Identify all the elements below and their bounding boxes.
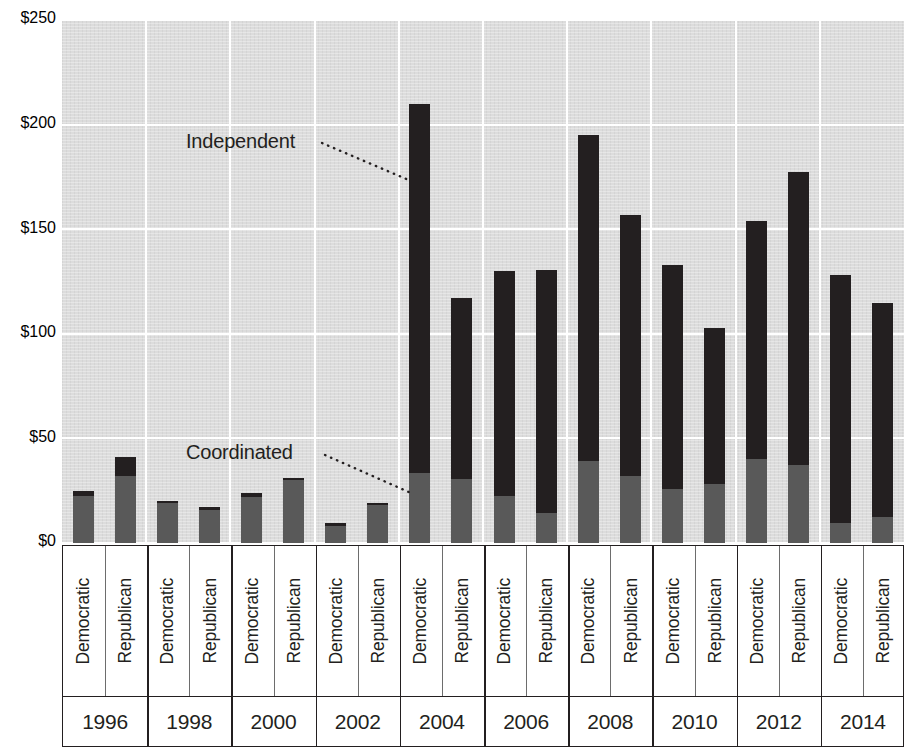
party-label-text: Republican xyxy=(791,578,809,664)
party-label-text: Republican xyxy=(875,578,893,664)
party-label-text: Democratic xyxy=(580,578,598,665)
year-divider-2008 xyxy=(568,697,570,746)
x-axis-label-1998-democratic: Democratic xyxy=(147,546,189,696)
year-divider-2012 xyxy=(737,697,739,746)
bar-segment-independent xyxy=(409,104,430,473)
bar-2000-republican xyxy=(283,478,304,543)
x-axis-label-2010-democratic: Democratic xyxy=(652,546,694,696)
bar-segment-independent xyxy=(662,265,683,489)
year-separator-2006 xyxy=(484,546,486,696)
party-separator-2000 xyxy=(274,546,275,696)
gridline-v-2002 xyxy=(314,20,316,543)
x-axis-label-2002-democratic: Democratic xyxy=(316,546,358,696)
y-tick-label: $250 xyxy=(20,9,56,26)
party-separator-2012 xyxy=(779,546,780,696)
gridline-v-2004 xyxy=(398,20,400,543)
bar-segment-coordinated xyxy=(73,496,94,543)
annotation-independent: Independent xyxy=(186,130,295,153)
bar-segment-independent xyxy=(199,507,220,509)
bar-segment-coordinated xyxy=(536,513,557,543)
bar-segment-independent xyxy=(283,478,304,480)
stacked-bar-chart: $250 $200 $150 $100 $50 $0 Independent C… xyxy=(0,0,904,747)
year-separator-2004 xyxy=(400,546,402,696)
x-axis-year-2012: 2012 xyxy=(737,697,821,746)
bar-segment-independent xyxy=(157,501,178,503)
x-axis-year-row: 1996199820002002200420062008201020122014 xyxy=(62,697,904,747)
bar-1998-republican xyxy=(199,507,220,543)
y-tick-label: $100 xyxy=(20,323,56,340)
year-divider-2000 xyxy=(231,697,233,746)
x-axis-party-row: DemocraticRepublicanDemocraticRepublican… xyxy=(62,545,904,697)
x-axis-year-2010: 2010 xyxy=(652,697,736,746)
bar-segment-independent xyxy=(704,328,725,485)
bar-segment-independent xyxy=(115,457,136,476)
year-separator-2000 xyxy=(231,546,233,696)
bar-segment-coordinated xyxy=(704,484,725,543)
party-label-text: Republican xyxy=(286,578,304,664)
bar-segment-independent xyxy=(451,298,472,479)
party-separator-2004 xyxy=(442,546,443,696)
y-tick-200: $200 xyxy=(0,114,56,132)
x-axis-label-2000-republican: Republican xyxy=(274,546,316,696)
x-axis-year-2002: 2002 xyxy=(316,697,400,746)
year-separator-2010 xyxy=(652,546,654,696)
x-axis-label-2008-democratic: Democratic xyxy=(568,546,610,696)
x-axis-label-2008-republican: Republican xyxy=(610,546,652,696)
bar-segment-coordinated xyxy=(494,496,515,543)
year-separator-2014 xyxy=(821,546,823,696)
gridline-v-2008 xyxy=(566,20,568,543)
x-axis-label-1998-republican: Republican xyxy=(189,546,231,696)
y-tick-label: $200 xyxy=(20,114,56,131)
bar-2006-democratic xyxy=(494,271,515,543)
bar-1996-democratic xyxy=(73,491,94,543)
x-axis-year-2014: 2014 xyxy=(821,697,904,746)
x-axis-year-2008: 2008 xyxy=(568,697,652,746)
y-tick-250: $250 xyxy=(0,9,56,27)
bar-2002-democratic xyxy=(325,523,346,543)
x-axis-label-2014-democratic: Democratic xyxy=(821,546,863,696)
party-separator-2002 xyxy=(358,546,359,696)
bar-segment-coordinated xyxy=(620,476,641,543)
bar-segment-independent xyxy=(494,271,515,496)
party-label-text: Democratic xyxy=(412,578,430,665)
party-label-text: Republican xyxy=(117,578,135,664)
gridline-v-2014 xyxy=(819,20,821,543)
bar-segment-independent xyxy=(325,523,346,526)
party-separator-2010 xyxy=(695,546,696,696)
gridline-v-2010 xyxy=(650,20,652,543)
y-tick-label: $150 xyxy=(20,219,56,236)
bar-2000-democratic xyxy=(241,493,262,543)
bar-segment-coordinated xyxy=(451,479,472,543)
bar-2004-democratic xyxy=(409,104,430,543)
x-axis-year-2006: 2006 xyxy=(484,697,568,746)
bar-segment-coordinated xyxy=(325,526,346,543)
party-separator-2006 xyxy=(526,546,527,696)
party-label-text: Republican xyxy=(623,578,641,664)
bar-segment-independent xyxy=(872,303,893,516)
bar-segment-coordinated xyxy=(788,465,809,543)
bar-2012-republican xyxy=(788,172,809,543)
party-separator-1996 xyxy=(105,546,106,696)
x-axis-label-2000-democratic: Democratic xyxy=(231,546,273,696)
party-label-text: Democratic xyxy=(75,578,93,665)
party-label-text: Republican xyxy=(370,578,388,664)
bar-segment-coordinated xyxy=(872,517,893,543)
x-axis-label-2012-democratic: Democratic xyxy=(737,546,779,696)
bar-2004-republican xyxy=(451,298,472,543)
y-tick-50: $50 xyxy=(0,428,56,446)
year-divider-2002 xyxy=(316,697,318,746)
bar-2006-republican xyxy=(536,270,557,543)
bar-2008-republican xyxy=(620,215,641,543)
x-axis-label-2006-democratic: Democratic xyxy=(484,546,526,696)
x-axis-label-1996-democratic: Democratic xyxy=(63,546,105,696)
party-label-text: Republican xyxy=(454,578,472,664)
bar-segment-coordinated xyxy=(830,523,851,543)
year-divider-1998 xyxy=(147,697,149,746)
gridline-v-2000 xyxy=(229,20,231,543)
party-label-text: Republican xyxy=(538,578,556,664)
bar-segment-coordinated xyxy=(662,489,683,543)
bar-2014-republican xyxy=(872,303,893,543)
gridline-v-1998 xyxy=(145,20,147,543)
party-label-text: Republican xyxy=(202,578,220,664)
x-axis-label-2002-republican: Republican xyxy=(358,546,400,696)
